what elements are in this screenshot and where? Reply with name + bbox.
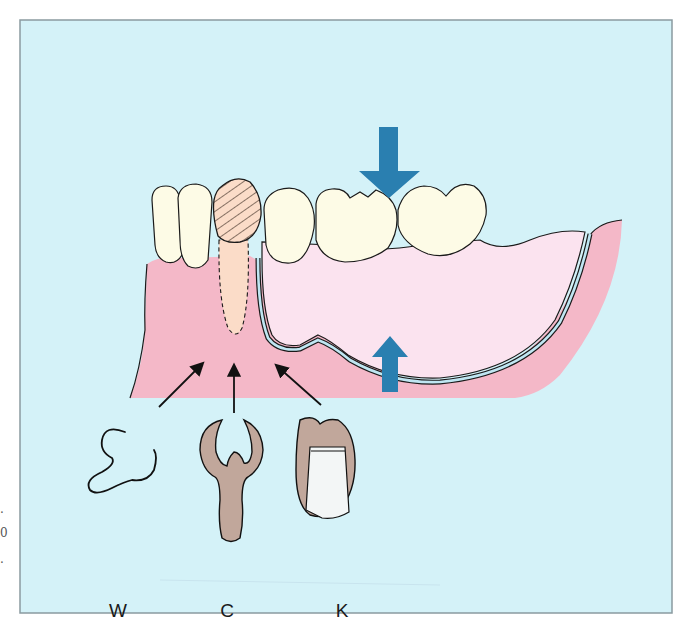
edge-mark-1: . <box>0 502 4 516</box>
crown-attachment-insert <box>306 447 349 518</box>
label-wire-clasp: W <box>109 600 127 622</box>
denture-tooth-premolar <box>264 188 314 263</box>
label-crown-attachment: K <box>336 600 349 622</box>
edge-mark-2: 0 <box>0 526 8 540</box>
edge-mark-3: . <box>0 552 4 566</box>
abutment-crown-hatched <box>214 179 262 243</box>
dental-diagram: W C K . 0 . <box>0 0 688 629</box>
tooth-anterior-2 <box>178 184 212 268</box>
label-cast-clasp: C <box>220 600 234 622</box>
